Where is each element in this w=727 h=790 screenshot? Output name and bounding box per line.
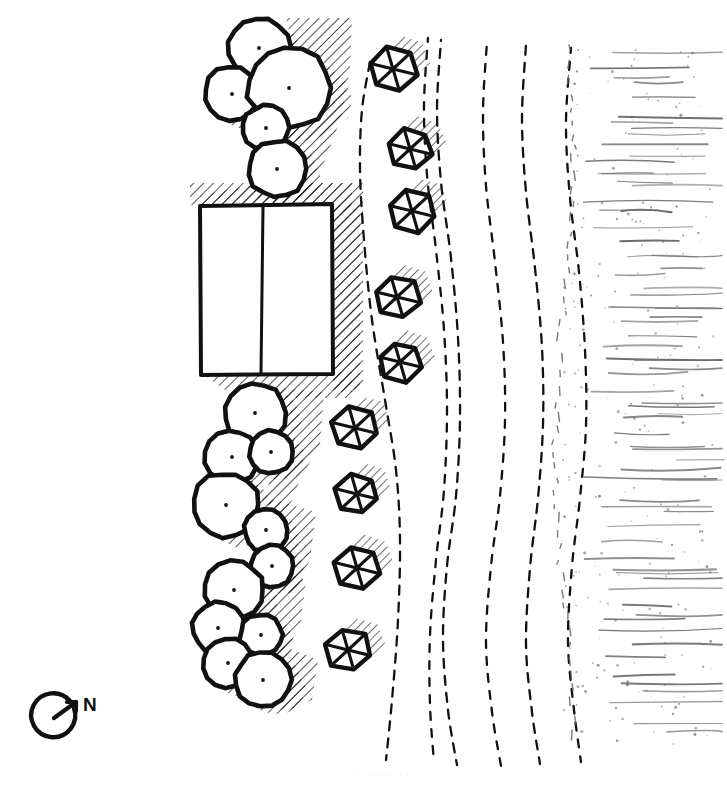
texture-boundary-dash [560, 544, 561, 549]
texture-stipple-dot [631, 218, 633, 220]
texture-stipple-dot [595, 566, 596, 567]
path-5-east [522, 45, 543, 764]
texture-stipple-dot [565, 307, 567, 309]
texture-boundary-dash [562, 590, 563, 598]
texture-stipple-dot [564, 443, 566, 445]
texture-stipple-dot [602, 227, 603, 228]
texture-stipple-dot [589, 413, 590, 414]
texture-stipple-dot [612, 167, 615, 170]
texture-field [552, 45, 724, 745]
texture-grass-stroke [633, 449, 722, 450]
texture-stipple-dot [692, 158, 694, 160]
texture-boundary-dash [562, 353, 563, 362]
texture-stipple-dot [693, 76, 695, 78]
texture-stipple-dot [595, 496, 597, 498]
texture-stipple-dot [569, 186, 571, 188]
texture-stipple-dot [577, 155, 579, 157]
texture-stipple-dot [662, 241, 664, 243]
tree-trunk-dot [253, 411, 257, 415]
texture-stipple-dot [682, 421, 685, 424]
texture-boundary-dash [570, 187, 571, 194]
hexagon-plant [376, 265, 432, 317]
texture-stipple-dot [651, 696, 652, 697]
texture-stipple-dot [582, 328, 585, 331]
texture-stipple-dot [599, 574, 601, 576]
tree-trunk-dot [226, 661, 230, 665]
texture-boundary-dash [558, 412, 559, 421]
texture-grass-stroke [616, 573, 718, 574]
texture-stipple-dot [574, 306, 576, 308]
texture-stipple-dot [626, 680, 629, 683]
texture-grass-stroke [633, 643, 722, 644]
texture-boundary-dash [571, 232, 572, 235]
tree-trunk-dot [230, 92, 234, 96]
texture-stipple-dot [673, 347, 676, 350]
texture-stipple-dot [576, 70, 578, 72]
texture-stipple-dot [613, 321, 614, 322]
texture-stipple-dot [583, 284, 584, 285]
texture-boundary-dash [557, 479, 558, 483]
tree-trunk-dot [269, 450, 273, 454]
texture-stipple-dot [616, 664, 619, 667]
texture-stipple-dot [578, 571, 580, 573]
texture-stipple-dot [641, 244, 643, 246]
texture-field-layer [552, 45, 724, 745]
texture-grass-stroke [659, 414, 723, 415]
texture-stipple-dot [709, 571, 712, 574]
texture-grass-stroke [642, 403, 722, 404]
texture-stipple-dot [571, 283, 573, 285]
hexagon-plant [331, 397, 389, 449]
texture-stipple-dot [632, 119, 633, 120]
north-arrow-circle [31, 693, 75, 737]
texture-stipple-dot [623, 78, 624, 79]
texture-boundary-dash [569, 45, 570, 49]
texture-stipple-dot [648, 608, 651, 611]
tree-trunk-dot [275, 167, 279, 171]
texture-stipple-dot [711, 444, 713, 446]
texture-stipple-dot [663, 277, 665, 279]
texture-stipple-dot [676, 305, 678, 307]
texture-stipple-dot [638, 692, 639, 693]
texture-stipple-dot [588, 56, 590, 58]
texture-grass-stroke [629, 406, 715, 408]
texture-stipple-dot [577, 269, 579, 271]
texture-stipple-dot [700, 129, 702, 131]
texture-stipple-dot [650, 206, 652, 208]
texture-stipple-dot [660, 636, 662, 638]
texture-stipple-dot [658, 230, 660, 232]
texture-stipple-dot [594, 158, 596, 160]
texture-stipple-dot [648, 430, 650, 432]
texture-stipple-dot [600, 601, 602, 603]
tree-trunk-dot [230, 455, 234, 459]
texture-stipple-dot [706, 565, 709, 568]
texture-stipple-dot [581, 227, 583, 229]
texture-stipple-dot [644, 431, 645, 432]
texture-stipple-dot [565, 585, 567, 587]
texture-stipple-dot [563, 709, 566, 712]
texture-grass-stroke [620, 500, 699, 502]
texture-boundary-dash [571, 671, 572, 679]
texture-stipple-dot [675, 106, 678, 109]
texture-stipple-dot [644, 425, 646, 427]
texture-stipple-dot [662, 627, 663, 628]
texture-stipple-dot [577, 170, 579, 172]
texture-grass-stroke [608, 525, 701, 527]
texture-stipple-dot [609, 720, 611, 722]
north-arrow [31, 693, 76, 737]
texture-stipple-dot [639, 121, 640, 122]
texture-grass-stroke [602, 540, 662, 542]
texture-stipple-dot [618, 574, 620, 576]
texture-stipple-dot [580, 386, 583, 389]
texture-stipple-dot [709, 188, 711, 190]
texture-stipple-dot [613, 306, 614, 307]
texture-grass-stroke [612, 122, 673, 123]
texture-stipple-dot [654, 332, 657, 335]
texture-stipple-dot [625, 413, 627, 415]
texture-stipple-dot [694, 733, 697, 736]
texture-boundary-dash [567, 242, 568, 248]
texture-stipple-dot [631, 65, 633, 67]
texture-stipple-dot [643, 223, 644, 224]
texture-stipple-dot [622, 610, 623, 611]
texture-stipple-dot [576, 104, 577, 105]
texture-boundary-dash [557, 426, 558, 433]
